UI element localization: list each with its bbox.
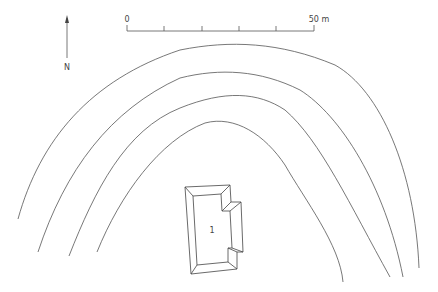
scale-bar: 0 50 m — [124, 15, 329, 31]
contour-lines — [18, 44, 419, 282]
north-label: N — [64, 63, 70, 72]
scale-end-label: 50 m — [309, 15, 330, 24]
roof-hip — [228, 262, 237, 269]
roof-hip — [230, 202, 241, 211]
building-1: 1 — [185, 185, 243, 274]
scale-start-label: 0 — [124, 15, 129, 24]
roof-hip — [185, 187, 193, 196]
north-arrow-head-icon — [65, 15, 69, 23]
north-arrow: N — [64, 15, 70, 72]
contour-line-2 — [38, 72, 403, 277]
roof-hip — [191, 265, 197, 274]
roof-hip — [221, 185, 230, 194]
site-plan: N 0 50 m 1 — [0, 0, 438, 292]
contour-line-4 — [97, 121, 343, 282]
roof-hip — [222, 202, 231, 211]
building-label: 1 — [209, 226, 214, 235]
roof-hip — [232, 248, 243, 252]
